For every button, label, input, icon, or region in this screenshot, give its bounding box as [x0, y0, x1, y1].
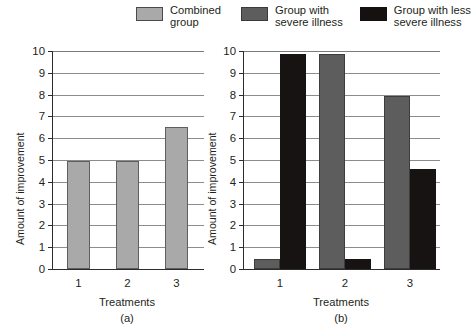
ytick-label-b-8: 8 — [230, 89, 236, 101]
plot-area-panel-a: 10 9 8 7 6 5 4 3 2 1 0 1 2 3 — [52, 51, 204, 270]
bars-panel-a — [53, 51, 204, 269]
ytick-label-b-5: 5 — [230, 154, 236, 166]
ytick-label-5: 5 — [39, 154, 45, 166]
ytick-label-6: 6 — [39, 132, 45, 144]
bar-severe-illness-t1[interactable] — [254, 259, 280, 269]
ytick-label-10: 10 — [32, 45, 45, 57]
panel-caption-a: (a) — [120, 312, 134, 324]
legend-label-combined-group: Combined group — [170, 4, 221, 29]
ytick-label-b-0: 0 — [230, 263, 236, 275]
legend-label-less-severe-illness: Group with less severe illness — [394, 4, 471, 29]
ytick-mark-0 — [48, 269, 53, 270]
y-axis-title-panel-b: Amount of improvement — [206, 133, 218, 245]
legend-entry-combined-group: Combined group — [136, 4, 221, 29]
bar-combined-group-t2[interactable] — [116, 161, 139, 269]
ytick-label-b-2: 2 — [230, 219, 236, 231]
legend-panel-a: Combined group — [136, 4, 221, 29]
ytick-label-8: 8 — [39, 89, 45, 101]
ytick-label-7: 7 — [39, 110, 45, 122]
xtick-label-a-2: 2 — [124, 277, 130, 289]
legend-swatch-icon-combined-group — [136, 7, 163, 21]
legend-swatch-icon-severe-illness — [241, 7, 268, 21]
ytick-mark-b-0 — [239, 269, 244, 270]
ytick-label-b-3: 3 — [230, 198, 236, 210]
bar-severe-illness-t3[interactable] — [384, 96, 410, 269]
ytick-label-1: 1 — [39, 241, 45, 253]
legend-entry-less-severe-illness: Group with less severe illness — [360, 4, 471, 29]
ytick-label-b-10: 10 — [223, 45, 236, 57]
x-axis-title-panel-a: Treatments — [99, 296, 155, 308]
figure-two-bar-charts: Combined group Amount of improvement — [0, 0, 474, 329]
legend-entry-severe-illness: Group with severe illness — [241, 4, 343, 29]
bar-combined-group-t1[interactable] — [67, 161, 90, 269]
ytick-label-b-6: 6 — [230, 132, 236, 144]
panel-b: Group with severe illness Group with les… — [222, 0, 474, 329]
ytick-label-b-9: 9 — [230, 67, 236, 79]
legend-panel-b: Group with severe illness Group with les… — [241, 4, 471, 29]
bars-panel-b — [244, 51, 440, 269]
bar-less-severe-illness-t1[interactable] — [280, 54, 306, 269]
ytick-label-4: 4 — [39, 176, 45, 188]
ytick-label-2: 2 — [39, 219, 45, 231]
xtick-label-b-1: 1 — [277, 277, 283, 289]
plot-area-panel-b: 10 9 8 7 6 5 4 3 2 1 0 1 2 3 — [243, 51, 440, 270]
xtick-label-b-3: 3 — [407, 277, 413, 289]
panel-a: Combined group Amount of improvement — [0, 0, 222, 329]
xtick-label-b-2: 2 — [342, 277, 348, 289]
y-axis-title-panel-a: Amount of improvement — [14, 133, 26, 245]
ytick-label-9: 9 — [39, 67, 45, 79]
bar-combined-group-t3[interactable] — [165, 127, 188, 269]
ytick-label-3: 3 — [39, 198, 45, 210]
bar-severe-illness-t2[interactable] — [319, 54, 345, 269]
ytick-label-0: 0 — [39, 263, 45, 275]
xtick-label-a-3: 3 — [173, 277, 179, 289]
ytick-label-b-1: 1 — [230, 241, 236, 253]
bar-less-severe-illness-t2[interactable] — [345, 259, 371, 269]
ytick-label-b-7: 7 — [230, 110, 236, 122]
bar-less-severe-illness-t3[interactable] — [410, 169, 436, 269]
legend-label-severe-illness: Group with severe illness — [275, 4, 343, 29]
panel-caption-b: (b) — [334, 312, 348, 324]
x-axis-title-panel-b: Treatments — [313, 296, 369, 308]
xtick-label-a-1: 1 — [75, 277, 81, 289]
legend-swatch-icon-less-severe-illness — [360, 7, 387, 21]
ytick-label-b-4: 4 — [230, 176, 236, 188]
